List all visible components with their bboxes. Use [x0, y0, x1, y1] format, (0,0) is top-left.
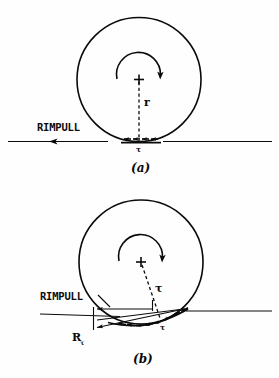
panel-a: r RIMPULL τ (a) — [8, 18, 272, 176]
radius-label-a: r — [144, 96, 150, 109]
shear-label-a: τ — [136, 145, 141, 154]
wheel-center-cross-b — [136, 257, 146, 267]
rimpull-label-a: RIMPULL — [37, 121, 80, 133]
panel-b: τ RIMPULL R τ — [40, 200, 272, 366]
resultant-label-group-b: R τ — [72, 331, 85, 347]
figure-svg: r RIMPULL τ (a) — [0, 0, 279, 378]
rimpull-leader-line-b — [98, 295, 110, 307]
panel-caption-a: (a) — [131, 161, 150, 175]
resultant-subscript-b: τ — [80, 339, 85, 347]
radius-label-b: τ — [155, 282, 162, 295]
panel-caption-b: (b) — [133, 352, 153, 366]
shear-label-b: τ — [160, 323, 165, 332]
rimpull-label-b: RIMPULL — [40, 290, 83, 302]
figure-root: r RIMPULL τ (a) — [0, 0, 279, 378]
